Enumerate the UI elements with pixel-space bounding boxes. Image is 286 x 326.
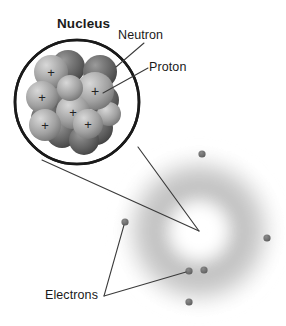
- proton-charge-symbol: +: [47, 65, 55, 80]
- electron-bottom-a: [185, 267, 192, 274]
- nucleus-particles: + + + + +: [26, 50, 121, 155]
- proton-charge-symbol: +: [91, 83, 99, 99]
- electron-bottom-b: [200, 266, 207, 273]
- electron-right: [263, 234, 270, 241]
- proton-charge-symbol: +: [38, 90, 46, 105]
- neutron-label: Neutron: [118, 29, 163, 42]
- proton-particle: +: [73, 109, 103, 139]
- neutron-leader-line: [116, 43, 144, 67]
- figure-canvas: + + + + +: [0, 0, 286, 326]
- electrons-label: Electrons: [45, 289, 98, 302]
- proton-sphere: [57, 75, 83, 101]
- electron-bottom-far: [185, 298, 192, 305]
- proton-particle: +: [29, 109, 61, 141]
- proton-charge-symbol: +: [84, 117, 92, 132]
- proton-charge-symbol: +: [41, 118, 49, 133]
- proton-particle: +: [26, 81, 58, 113]
- nucleus-label: Nucleus: [57, 17, 110, 31]
- electron-top: [198, 150, 205, 157]
- electron-left: [121, 218, 128, 225]
- nucleus-magnifier: + + + + +: [15, 40, 139, 164]
- proton-particle: [57, 75, 83, 101]
- proton-label: Proton: [149, 61, 186, 74]
- atom-structure-figure: + + + + +: [0, 0, 286, 326]
